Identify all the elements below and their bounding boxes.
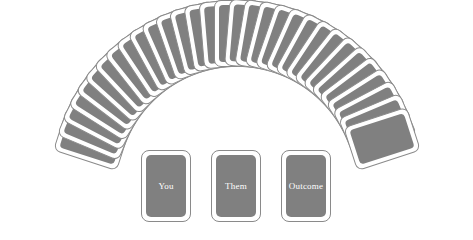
- play-card-outcome[interactable]: Outcome: [281, 150, 331, 222]
- card-scene: You Them Outcome: [0, 0, 473, 240]
- play-card-label: Outcome: [289, 182, 323, 191]
- play-card-you[interactable]: You: [141, 150, 191, 222]
- card-face: Them: [216, 155, 256, 217]
- play-card-label: Them: [225, 182, 247, 191]
- card-face: Outcome: [286, 155, 326, 217]
- play-card-label: You: [158, 182, 173, 191]
- card-face: You: [146, 155, 186, 217]
- play-card-them[interactable]: Them: [211, 150, 261, 222]
